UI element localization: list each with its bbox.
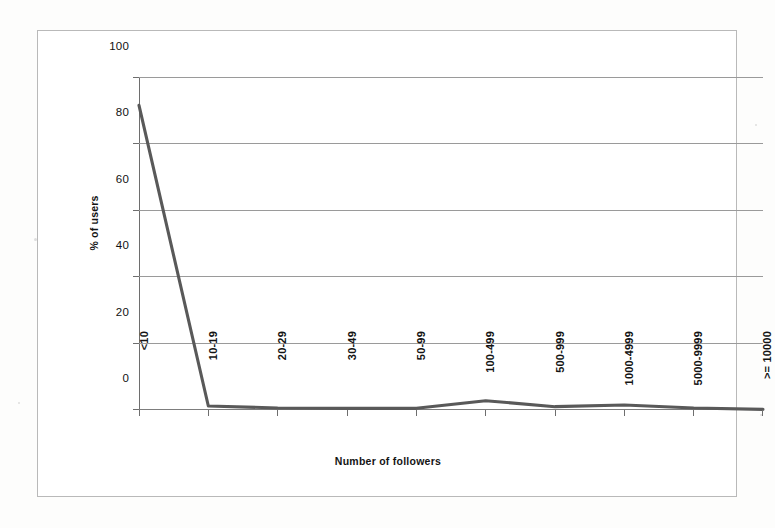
x-category-label-6: 500-999 [555, 331, 566, 421]
y-tick-label-100: 100 [87, 41, 129, 53]
x-category-label-5: 100-499 [485, 331, 496, 421]
y-axis-title: % of users [88, 163, 100, 283]
y-tick-label-20: 20 [87, 307, 129, 319]
scan-speckle [18, 402, 20, 404]
x-category-label-0: <10 [139, 331, 150, 421]
series-polyline [139, 105, 763, 409]
x-category-label-3: 30-49 [347, 331, 358, 421]
x-category-label-8: 5000-9999 [693, 331, 704, 421]
x-category-label-2: 20-29 [277, 331, 288, 421]
y-tick-label-0: 0 [87, 373, 129, 385]
y-tick-label-80: 80 [87, 107, 129, 119]
x-category-label-4: 50-99 [416, 331, 427, 421]
scanned-page-background: 100 80 60 40 20 0 % of users [0, 0, 775, 528]
x-category-label-1: 10-19 [208, 331, 219, 421]
x-category-label-7: 1000-4999 [624, 331, 635, 421]
series-line-percent-of-users [139, 77, 763, 410]
y-axis-tick-labels: 100 80 60 40 20 0 [78, 31, 129, 498]
x-axis-title: Number of followers [38, 455, 738, 467]
x-category-label-9: >= 10000 [762, 331, 773, 421]
chart-frame: 100 80 60 40 20 0 % of users [37, 30, 737, 497]
